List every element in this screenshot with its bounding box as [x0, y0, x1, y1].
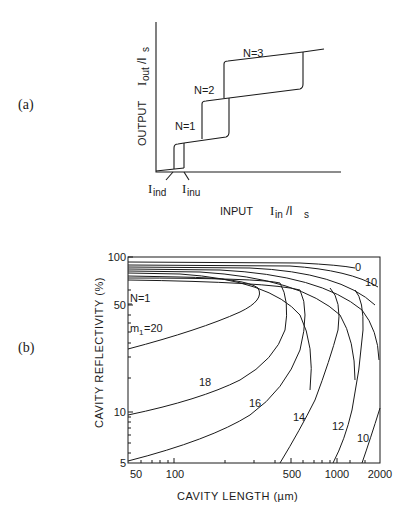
contour-label-18: 18	[199, 376, 211, 388]
svg-text:s: s	[304, 209, 309, 220]
svg-text:50: 50	[130, 468, 142, 480]
contour-label-16: 16	[249, 397, 261, 409]
panel-b-plot	[128, 257, 380, 463]
svg-text:50: 50	[114, 299, 126, 311]
branch-label-n3: N=3	[243, 47, 264, 59]
svg-text:out: out	[140, 67, 151, 81]
m1-annotation: m 1 =20	[130, 322, 163, 337]
svg-text:INPUT: INPUT	[220, 205, 253, 217]
svg-text:I: I	[134, 82, 149, 86]
panel-b-xlabel: CAVITY LENGTH (µm)	[177, 490, 298, 502]
svg-text:m: m	[130, 322, 139, 334]
svg-text:I: I	[182, 181, 186, 196]
branch-label-n1: N=1	[175, 120, 196, 132]
panel-a-xlabel: INPUT I in /I s	[220, 203, 309, 220]
svg-text:OUTPUT: OUTPUT	[136, 101, 148, 147]
contour-label-14: 14	[293, 411, 305, 423]
svg-text:10: 10	[114, 406, 126, 418]
svg-text:5: 5	[120, 457, 126, 469]
svg-text:/I: /I	[135, 57, 149, 64]
svg-text:100: 100	[166, 468, 184, 480]
svg-text:500: 500	[283, 468, 301, 480]
panel-b-frame	[128, 257, 380, 463]
svg-text:1000: 1000	[325, 468, 349, 480]
svg-text:inu: inu	[187, 187, 200, 198]
svg-text:/I: /I	[286, 204, 293, 218]
figure-canvas: N=1 N=2 N=3 I ind I inu OUTPUT I out /I …	[0, 0, 407, 506]
contour-label-10-lower: 10	[357, 432, 369, 444]
svg-text:ind: ind	[153, 187, 166, 198]
contour-label-10-upper: 10	[365, 276, 377, 288]
svg-text:=20: =20	[144, 322, 163, 334]
svg-text:I: I	[148, 181, 152, 196]
panel-a-ylabel: OUTPUT I out /I s	[134, 47, 151, 146]
panel-b-xticks: 50 100 500 1000 2000	[130, 468, 392, 480]
svg-text:100: 100	[108, 251, 126, 263]
svg-text:2000: 2000	[368, 468, 392, 480]
threshold-down-label: I ind	[148, 181, 166, 198]
svg-text:s: s	[140, 47, 151, 52]
n1-annotation: N=1	[130, 292, 151, 304]
svg-text:in: in	[275, 209, 283, 220]
svg-text:I: I	[270, 203, 274, 218]
branch-label-n2: N=2	[194, 84, 215, 96]
contour-label-0: 0	[355, 261, 361, 273]
panel-b-ylabel: CAVITY REFLECTIVITY (%)	[93, 277, 105, 428]
contour-label-12: 12	[332, 420, 344, 432]
panel-b-yticks: 100 50 10 5	[108, 251, 126, 469]
threshold-up-label: I inu	[182, 181, 200, 198]
panel-a-plot	[156, 22, 341, 180]
